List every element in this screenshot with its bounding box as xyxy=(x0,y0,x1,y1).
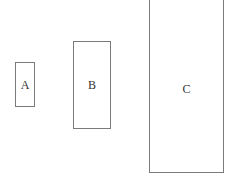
rectangle-a-label: A xyxy=(21,79,30,91)
rectangle-a: A xyxy=(15,62,35,107)
rectangle-b-label: B xyxy=(88,79,96,91)
rectangle-c-label: C xyxy=(182,83,190,95)
rectangle-b: B xyxy=(73,41,111,129)
rectangle-c: C xyxy=(149,0,224,173)
